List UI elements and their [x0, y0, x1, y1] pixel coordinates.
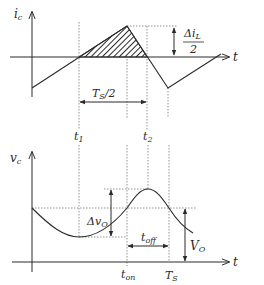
bottom-guide-lines	[32, 145, 196, 266]
ts-label: TS	[165, 269, 178, 283]
vo-label: VO	[190, 239, 206, 254]
toff-label: toff	[141, 231, 157, 245]
delta-il-denominator: 2	[189, 43, 197, 56]
t1-label: t1	[74, 130, 84, 144]
half-period-label: TS/2	[92, 87, 116, 101]
top-plot-current: ic t ΔiL 2 TS/2 t1 t2	[10, 7, 238, 144]
delta-vo-label: ΔvO	[86, 215, 108, 229]
t2-label: t2	[143, 130, 153, 144]
bottom-x-label: t	[233, 255, 238, 269]
top-x-label: t	[233, 50, 238, 64]
capacitor-waveform-diagram: ic t ΔiL 2 TS/2 t1 t2 vc	[0, 0, 264, 285]
bottom-y-label: vc	[10, 151, 22, 166]
delta-il-numerator: ΔiL	[183, 27, 201, 41]
bottom-plot-voltage: vc t ΔvO toff VO ton TS	[10, 145, 238, 283]
top-y-label: ic	[14, 7, 23, 22]
ton-label: ton	[121, 268, 135, 282]
